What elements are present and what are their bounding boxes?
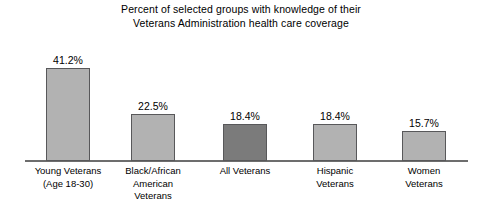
category-label-line: All Veterans [193,165,297,178]
category-label-line: Black/African [101,165,205,178]
category-label-black-african-american-veterans: Black/African American Veterans [101,165,205,203]
bar-value-label: 15.7% [402,117,446,129]
bar-women-veterans[interactable] [402,131,446,161]
bar-value-label: 22.5% [131,100,175,112]
category-label-all-veterans: All Veterans [193,165,297,178]
bar-value-label: 41.2% [46,54,90,66]
bar-hispanic-veterans[interactable] [313,124,357,161]
bar-all-veterans[interactable] [223,124,267,161]
category-label-line: Women [372,165,476,178]
category-label-line: American [101,178,205,191]
plot-area: 41.2% Young Veterans (Age 18-30) 22.5% B… [0,0,482,220]
category-label-women-veterans: Women Veterans [372,165,476,190]
bar-young-veterans[interactable] [46,68,90,161]
bar-value-label: 18.4% [313,110,357,122]
category-label-line: Veterans [101,190,205,203]
bar-black-african-american-veterans[interactable] [131,114,175,161]
bar-value-label: 18.4% [223,110,267,122]
category-label-line: Veterans [372,178,476,191]
bar-chart: Percent of selected groups with knowledg… [0,0,482,220]
